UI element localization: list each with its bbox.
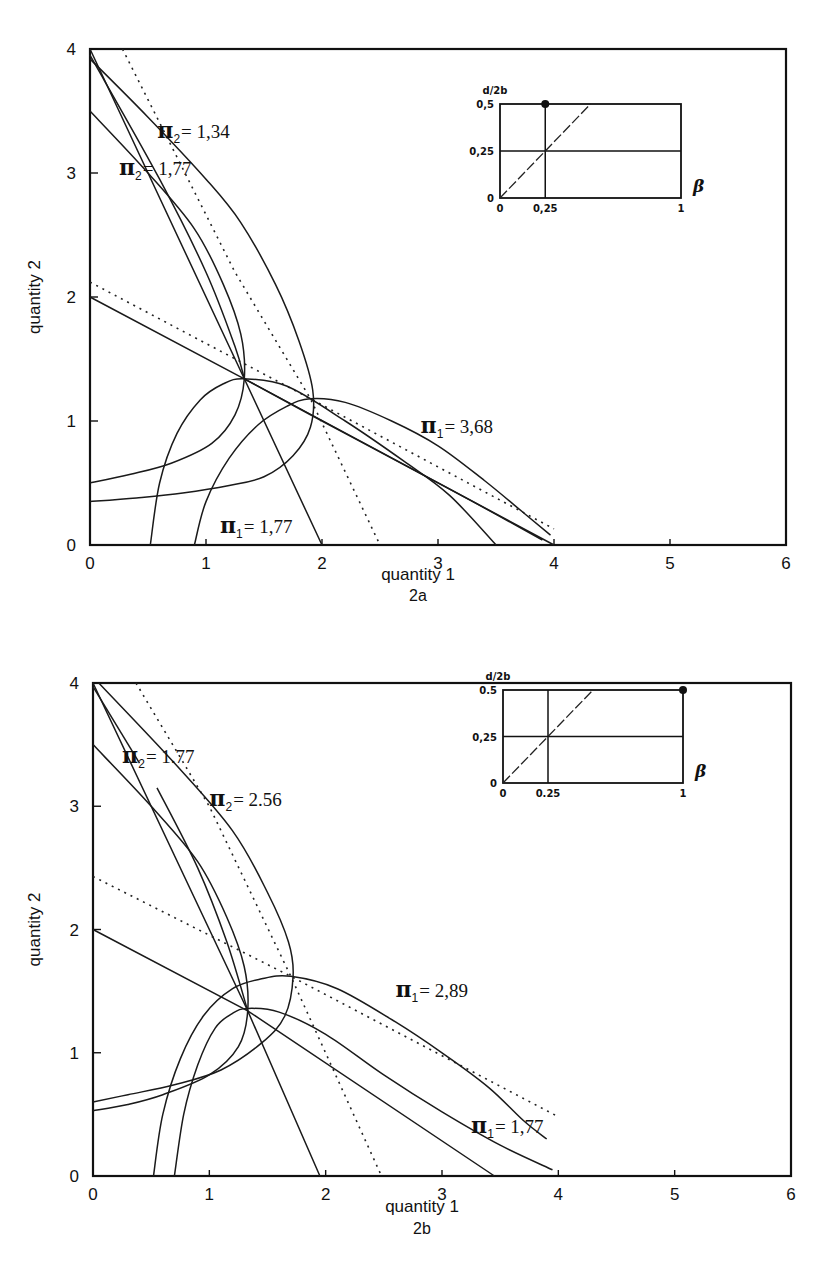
inset-x-tick: 0 [500, 788, 507, 799]
curve-label: π2= 2.56 [209, 785, 282, 814]
inset-x-tick: 0.25 [536, 788, 561, 799]
x-tick-label: 1 [205, 1185, 214, 1204]
y-tick-label: 4 [70, 674, 79, 693]
inset-x-label: β [694, 761, 706, 781]
x-tick-label: 4 [549, 554, 558, 573]
inset-y-label: d/2b [486, 671, 511, 682]
x-tick-label: 0 [88, 1185, 97, 1204]
y-tick-label: 1 [67, 412, 76, 431]
inset-chart: d/2b00,250.500.251β [472, 671, 706, 799]
curve-label: π1= 3,68 [421, 412, 494, 441]
y-tick-label: 0 [67, 536, 76, 555]
x-tick-label: 6 [786, 1185, 795, 1204]
y-tick-label: 1 [70, 1044, 79, 1063]
series-curve [174, 1008, 552, 1176]
x-tick-label: 1 [201, 554, 210, 573]
curve-label: π1= 1,77 [220, 512, 293, 541]
inset-y-tick: 0 [487, 193, 494, 204]
inset-x-tick: 1 [678, 203, 685, 214]
series-curve [154, 976, 547, 1176]
inset-x-label: β [692, 176, 704, 196]
series-curve [150, 379, 496, 545]
y-tick-label: 2 [70, 921, 79, 940]
curve-label: π2= 1.77 [122, 742, 195, 771]
inset-x-tick: 1 [680, 788, 687, 799]
x-tick-label: 5 [665, 554, 674, 573]
inset-y-label: d/2b [483, 85, 508, 96]
inset-y-tick: 0,25 [472, 732, 497, 743]
y-axis-label: quantity 2 [25, 260, 44, 334]
curve-label: π1= 1,77 [471, 1112, 544, 1141]
curve-label: π2= 1,77 [119, 154, 192, 183]
y-tick-label: 3 [70, 797, 79, 816]
plot-frame [93, 683, 791, 1176]
x-axis-label: quantity 1 [385, 1197, 459, 1216]
inset-y-tick: 0 [490, 778, 497, 789]
x-tick-label: 6 [781, 554, 790, 573]
inset-y-tick: 0.5 [479, 685, 497, 696]
y-tick-label: 4 [67, 40, 76, 59]
figure: 012345601234quantity 1quantity 22aπ2= 1,… [0, 0, 816, 1266]
y-axis-label: quantity 2 [25, 893, 44, 967]
y-tick-label: 0 [70, 1167, 79, 1186]
chart-2b: 012345601234quantity 1quantity 22bπ2= 1.… [25, 671, 796, 1237]
y-tick-label: 3 [67, 164, 76, 183]
x-axis-label: quantity 1 [381, 565, 455, 584]
curve-label: π2= 1,34 [157, 117, 230, 146]
x-tick-label: 2 [321, 1185, 330, 1204]
figure-caption: 2b [413, 1220, 431, 1237]
curve-label: π1= 2,89 [395, 976, 468, 1005]
inset-x-tick: 0,25 [533, 203, 558, 214]
y-tick-label: 2 [67, 288, 76, 307]
chart-2a: 012345601234quantity 1quantity 22aπ2= 1,… [25, 40, 791, 604]
figure-caption: 2a [409, 587, 427, 604]
series-curve [157, 788, 248, 1011]
inset-marker [541, 100, 549, 108]
x-tick-label: 5 [670, 1185, 679, 1204]
inset-y-tick: 0,5 [476, 99, 494, 110]
x-tick-label: 0 [85, 554, 94, 573]
inset-y-tick: 0,25 [469, 146, 494, 157]
inset-marker [679, 686, 687, 694]
inset-x-tick: 0 [497, 203, 504, 214]
x-tick-label: 4 [554, 1185, 563, 1204]
inset-chart: d/2b00,250,500,251β [469, 85, 704, 214]
series-curve [93, 877, 558, 1117]
x-tick-label: 2 [317, 554, 326, 573]
